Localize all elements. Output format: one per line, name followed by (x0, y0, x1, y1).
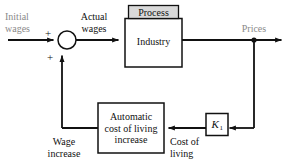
summing-junction-plus-top: + (45, 28, 51, 39)
gain-symbol: K (212, 118, 219, 130)
block-diagram: Initial wages Actual wages + + Process I… (0, 0, 290, 167)
label-wage-increase: Wage increase (36, 136, 92, 159)
industry-label: Industry (125, 36, 182, 48)
summing-junction-plus-bottom: + (47, 52, 53, 63)
label-prices: Prices (232, 23, 276, 35)
process-header-label: Process (129, 7, 179, 19)
gain-subscript: 1 (219, 124, 223, 132)
cost-of-living-block-label: Automatic cost of living increase (98, 111, 164, 146)
label-cost-of-living: Cost of living (170, 136, 220, 159)
gain-block-label: K1 (206, 118, 228, 130)
label-actual-wages: Actual wages (71, 11, 117, 34)
